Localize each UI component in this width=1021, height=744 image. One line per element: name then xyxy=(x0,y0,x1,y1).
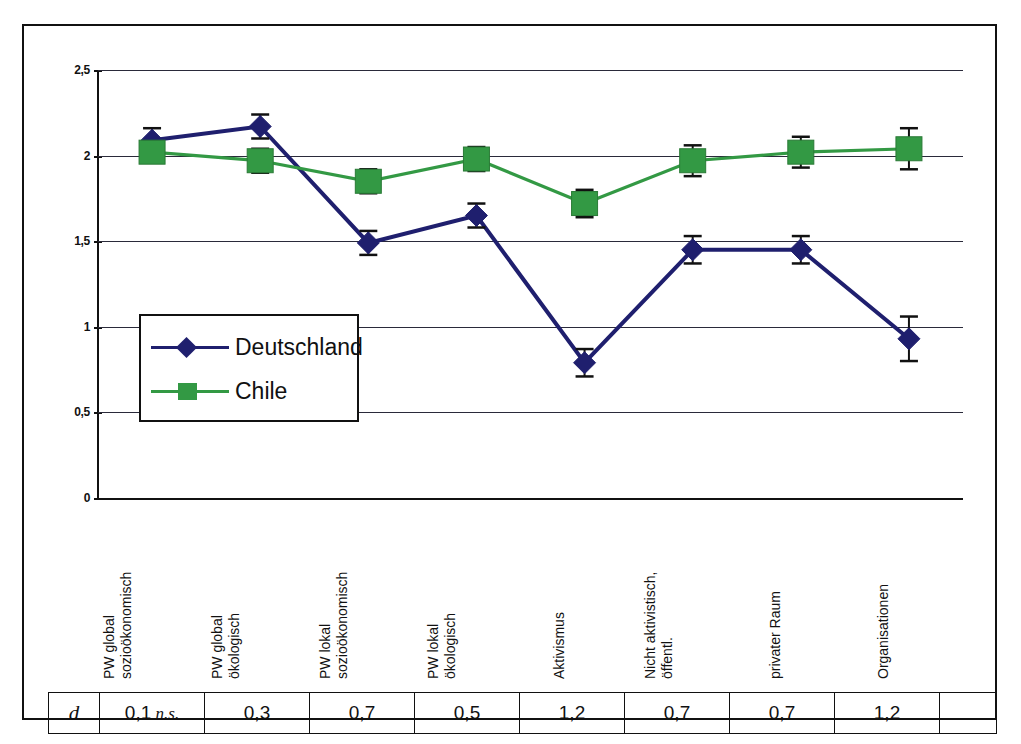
legend-entry-chile: Chile xyxy=(151,374,287,408)
x-category-label-line: Nicht aktivistisch, xyxy=(642,504,659,679)
x-category-label: PW globalsozioökonomisch xyxy=(135,504,169,679)
x-category-label-line: ökologisch xyxy=(442,504,459,679)
x-category-label-line: PW lokal xyxy=(425,504,442,679)
effect-size-cell: 0,7 xyxy=(625,693,730,734)
y-axis-tick-labels: 00,511,522,5 xyxy=(50,70,90,498)
plot-area xyxy=(98,70,963,498)
x-category-label-line: Aktivismus xyxy=(551,504,568,679)
x-category-label: PW globalökologisch xyxy=(243,504,277,679)
data-point-marker xyxy=(572,192,598,216)
x-category-label: PW lokalsozioökonomisch xyxy=(351,504,385,679)
effect-size-cell: 0,7 xyxy=(310,693,415,734)
significance-note: n.s. xyxy=(151,704,179,723)
effect-size-symbol: d xyxy=(49,693,100,734)
data-point-marker xyxy=(788,140,814,164)
legend-label-chile: Chile xyxy=(235,378,287,405)
x-category-label-line: PW global xyxy=(209,504,226,679)
x-category-label-line: öffentl. xyxy=(659,504,676,679)
x-category-label-line: sozioökonomisch xyxy=(334,504,351,679)
effect-size-cell: 0,3 xyxy=(205,693,310,734)
data-point-marker xyxy=(896,137,922,161)
x-category-label: Nicht aktivistisch,öffentl. xyxy=(676,504,710,679)
y-tick-label: 1 xyxy=(84,320,90,334)
x-category-label: PW lokalökologisch xyxy=(459,504,493,679)
effect-size-cell: 0,1 n.s. xyxy=(100,693,205,734)
effect-size-cell: 1,2 xyxy=(835,693,940,734)
effect-size-cell: 0,7 xyxy=(730,693,835,734)
legend-entry-deutschland: Deutschland xyxy=(151,330,363,364)
data-point-marker xyxy=(247,149,273,173)
x-category-label-line: privater Raum xyxy=(767,504,784,679)
x-category-label: Aktivismus xyxy=(568,504,602,679)
series-chile xyxy=(139,128,922,217)
data-point-marker xyxy=(139,140,165,164)
y-tick-label: 2,5 xyxy=(74,63,90,77)
x-category-label-line: PW lokal xyxy=(317,504,334,679)
legend-label-deutschland: Deutschland xyxy=(235,334,363,361)
legend-swatch-line-square-icon xyxy=(151,381,229,401)
effect-size-cell-empty xyxy=(940,693,997,734)
series-plot xyxy=(98,70,963,498)
y-tick-label: 0,5 xyxy=(74,405,90,419)
y-tick-label: 1,5 xyxy=(74,234,90,248)
y-tick-label: 2 xyxy=(84,149,90,163)
x-category-label-line: ökologisch xyxy=(226,504,243,679)
x-category-label-line: PW global xyxy=(101,504,118,679)
x-axis-category-labels: PW globalsozioökonomischPW globalökologi… xyxy=(98,504,963,684)
x-category-label: privater Raum xyxy=(784,504,818,679)
table-row: d 0,1 n.s.0,30,70,51,20,70,71,2 xyxy=(49,693,997,734)
chart-page: 00,511,522,5 Deutschland Chile xyxy=(0,0,1021,744)
data-point-marker xyxy=(355,169,381,193)
gridline-0 xyxy=(98,498,963,500)
figure-frame: 00,511,522,5 Deutschland Chile xyxy=(22,24,997,720)
effect-size-cell: 0,5 xyxy=(415,693,520,734)
x-category-label: Organisationen xyxy=(892,504,926,679)
data-point-marker xyxy=(680,149,706,173)
y-tick-label: 0 xyxy=(84,491,90,505)
x-category-label-line: sozioökonomisch xyxy=(118,504,135,679)
legend: Deutschland Chile xyxy=(139,314,359,422)
effect-size-cell: 1,2 xyxy=(520,693,625,734)
data-point-marker xyxy=(463,147,489,171)
effect-size-table: d 0,1 n.s.0,30,70,51,20,70,71,2 xyxy=(48,692,997,734)
legend-swatch-line-diamond-icon xyxy=(151,337,229,357)
x-category-label-line: Organisationen xyxy=(875,504,892,679)
